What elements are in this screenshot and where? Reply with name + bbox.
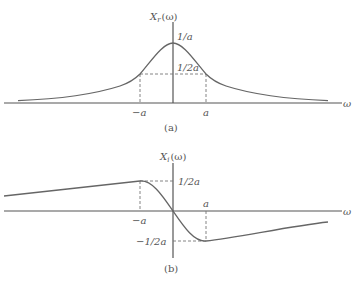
- title-b: Xi(ω): [159, 151, 186, 164]
- half-label-a: 1/2a: [177, 62, 199, 73]
- pos-a-label-a: a: [203, 107, 209, 118]
- caption-b: (b): [164, 263, 178, 274]
- pos-half-label-b: 1/2a: [178, 176, 200, 187]
- neg-half-guides: [173, 211, 206, 241]
- pos-half-guides: [140, 181, 173, 211]
- pos-a-label-b: a: [203, 198, 209, 209]
- neg-a-label-a: −a: [132, 107, 146, 118]
- figure-a: Xr(ω) 1/a 1/2a −a a ω (a): [4, 11, 351, 133]
- neg-a-label-b: −a: [132, 215, 146, 226]
- figure-b: Xi(ω) 1/2a −1/2a −a a ω (b): [4, 151, 351, 274]
- fourier-transform-diagram: Xr(ω) 1/a 1/2a −a a ω (a) Xi(ω) 1/2a −1/…: [0, 0, 352, 281]
- omega-label-a: ω: [343, 98, 351, 109]
- peak-label: 1/a: [177, 31, 193, 42]
- neg-half-label-b: −1/2a: [136, 236, 166, 247]
- caption-a: (a): [164, 122, 178, 133]
- omega-label-b: ω: [343, 206, 351, 217]
